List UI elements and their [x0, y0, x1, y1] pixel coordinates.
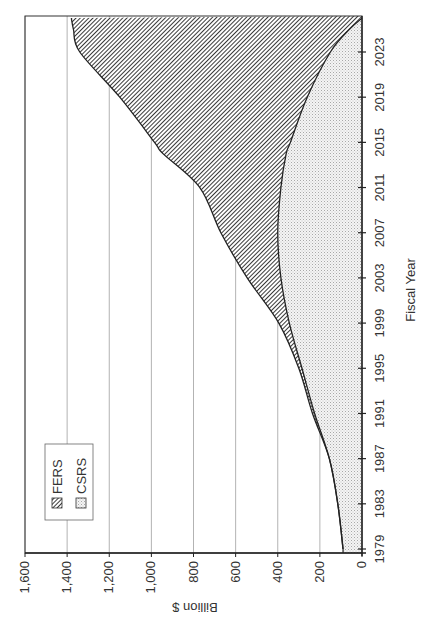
year-tick-label: 1983 — [372, 489, 387, 518]
x-axis-title: Fiscal Year — [403, 258, 418, 322]
year-tick-label: 1999 — [372, 309, 387, 338]
legend: FERSCSRS — [45, 444, 93, 520]
value-tick-label: 200 — [312, 561, 327, 583]
year-tick-label: 2015 — [372, 128, 387, 157]
value-tick-label: 1,000 — [143, 561, 158, 594]
value-tick-label: 0 — [354, 561, 369, 568]
year-tick-label: 2011 — [372, 174, 387, 202]
year-tick-label: 1995 — [372, 354, 387, 383]
value-tick-label: 1,200 — [101, 561, 116, 594]
value-tick-label: 800 — [186, 561, 201, 583]
value-tick-label: 400 — [270, 561, 285, 583]
value-tick-label: 600 — [228, 561, 243, 583]
legend-label-fers: FERS — [50, 459, 65, 494]
value-tick-label: 1,400 — [59, 561, 74, 594]
year-tick-label: 1991 — [372, 399, 387, 428]
value-tick-label: 1,600 — [17, 561, 32, 594]
csrs-swatch-icon — [76, 498, 86, 508]
legend-label-csrs: CSRS — [74, 458, 89, 494]
chart: 02004006008001,0001,2001,4001,6001979198… — [0, 0, 437, 633]
year-tick-label: 1987 — [372, 444, 387, 473]
year-tick-label: 2023 — [372, 38, 387, 67]
year-tick-label: 2007 — [372, 218, 387, 247]
year-tick-label: 1979 — [372, 535, 387, 564]
year-tick-label: 2003 — [372, 263, 387, 292]
fers-swatch-icon — [52, 498, 62, 508]
y-axis-title: Billion $ — [171, 600, 217, 615]
year-tick-label: 2019 — [372, 83, 387, 112]
